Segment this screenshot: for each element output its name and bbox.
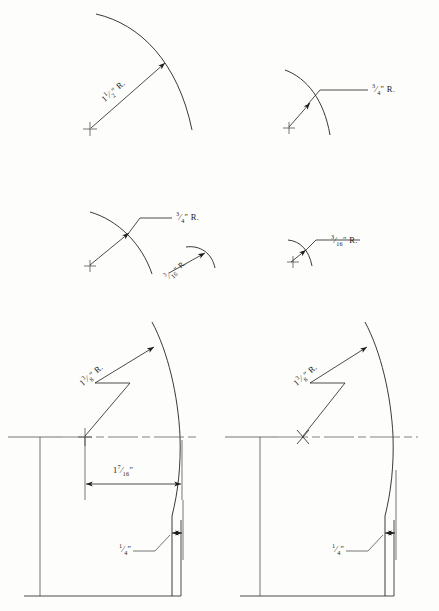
- arc-path-3b: [186, 247, 215, 268]
- figure-bottom-left: [8, 322, 200, 596]
- thk-leader-6: [346, 535, 383, 551]
- radius-label-fig3: 3⁄4″ R.: [176, 213, 199, 222]
- profile-curve-6: [365, 322, 393, 596]
- radius-label-fig4: 3⁄16″ R.: [331, 236, 358, 245]
- radius-label-fig2: 3⁄4″ R.: [372, 85, 395, 94]
- arc-path-3: [90, 212, 152, 274]
- profile-curve-5: [152, 322, 180, 596]
- figure-mid-left: [84, 212, 172, 274]
- leader-elbow-3: [128, 218, 172, 234]
- center-mark-plus-4: [287, 256, 299, 268]
- width-dimension-label-fig5: 17⁄16″: [113, 466, 133, 475]
- arc-path-1: [96, 14, 192, 130]
- thickness-label-fig6: 1⁄4″: [332, 545, 344, 554]
- drawing-sheet: 11⁄2″ R. 3⁄4″ R. 3⁄4″ R. 3⁄16″ R. 3⁄16″ …: [0, 0, 439, 611]
- radius-leader-3: [90, 233, 129, 265]
- radius-leader-5: [85, 347, 154, 436]
- figure-top-right: [283, 70, 368, 135]
- thk-leader-5: [133, 535, 170, 551]
- radius-leader-2: [289, 103, 310, 127]
- radius-leader-6: [303, 347, 367, 436]
- figure-top-left: [83, 14, 192, 136]
- thickness-label-fig5: 1⁄4″: [119, 545, 131, 554]
- center-mark-plus-2: [283, 122, 295, 134]
- figure-bottom-right: [225, 322, 418, 596]
- arc-path-2: [285, 70, 330, 135]
